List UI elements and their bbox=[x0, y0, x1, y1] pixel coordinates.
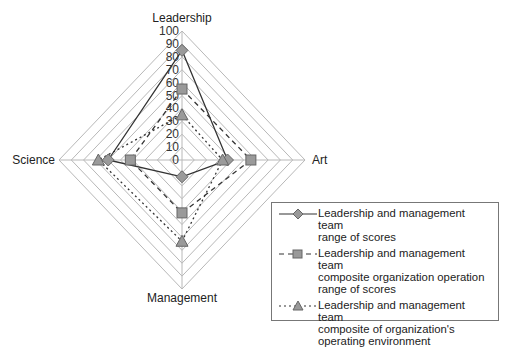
tick-label: 20 bbox=[166, 127, 180, 141]
series-line-triangle bbox=[98, 115, 222, 241]
axis-label-leadership: Leadership bbox=[152, 11, 212, 25]
square-marker bbox=[177, 208, 187, 218]
square-marker bbox=[177, 84, 187, 94]
axis-label-art: Art bbox=[312, 153, 328, 167]
tick-label: 100 bbox=[159, 24, 179, 38]
axis-label-science: Science bbox=[12, 153, 55, 167]
square-marker bbox=[246, 155, 256, 165]
diamond-marker-icon bbox=[278, 207, 318, 221]
legend-item-diamond: Leadership and management teamrange of s… bbox=[278, 207, 492, 243]
tick-label: 0 bbox=[172, 153, 179, 167]
legend-item-square: Leadership and management teamcomposite … bbox=[278, 247, 492, 295]
legend-label: Leadership and management teamrange of s… bbox=[318, 207, 492, 243]
legend-label: Leadership and management teamcomposite … bbox=[318, 247, 492, 295]
axis-label-management: Management bbox=[147, 291, 218, 305]
legend-item-triangle: Leadership and management teamcomposite … bbox=[278, 299, 492, 347]
triangle-marker bbox=[176, 235, 188, 246]
square-marker bbox=[125, 155, 135, 165]
triangle-marker-icon bbox=[278, 299, 318, 313]
chart-legend: Leadership and management teamrange of s… bbox=[271, 202, 499, 321]
tick-label: 40 bbox=[166, 101, 180, 115]
tick-label: 30 bbox=[166, 114, 180, 128]
legend-label: Leadership and management teamcomposite … bbox=[318, 299, 492, 347]
series-line-square bbox=[130, 89, 251, 213]
square-marker-icon bbox=[278, 247, 318, 261]
tick-label: 10 bbox=[166, 140, 180, 154]
